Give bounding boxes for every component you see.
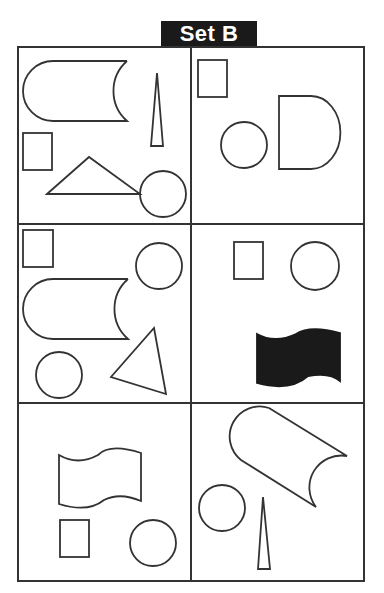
panel-r2c1 [23, 230, 182, 398]
square-shape [198, 60, 227, 97]
circle-shape [221, 122, 267, 168]
d-shape [279, 96, 340, 169]
cylinder-shape [23, 279, 128, 339]
panel-r1c2 [198, 60, 340, 169]
wave-banner-filled-shape [257, 329, 340, 386]
circle-shape [130, 520, 176, 566]
circle-shape [199, 485, 245, 531]
panel-r2c2 [234, 242, 340, 386]
circle-shape [36, 352, 82, 398]
cylinder-tilted-shape [230, 407, 347, 507]
circle-shape [291, 242, 339, 290]
thin-triangle-shape [151, 73, 163, 146]
square-shape [23, 133, 52, 170]
thin-triangle-shape [258, 497, 270, 569]
circle-shape [136, 243, 182, 289]
square-shape [234, 242, 263, 279]
panel-r3c2 [199, 407, 347, 569]
circle-shape [140, 171, 186, 217]
cylinder-shape [23, 61, 127, 121]
square-shape [60, 520, 89, 557]
panel-r1c1 [23, 61, 186, 217]
shape-grid [0, 0, 384, 593]
panel-r3c1 [59, 448, 176, 566]
triangle-shape [47, 157, 140, 194]
wave-banner-shape [59, 448, 141, 507]
triangle-shape [111, 328, 166, 394]
square-shape [23, 230, 53, 267]
